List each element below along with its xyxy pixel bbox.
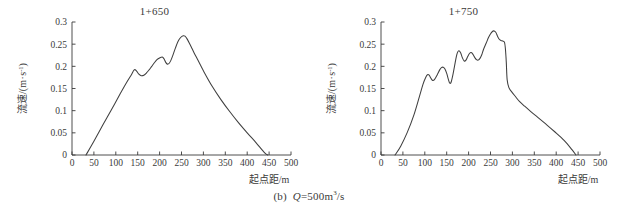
- x-tick-label: 100: [418, 158, 433, 168]
- y-tick-label: 0: [62, 150, 67, 160]
- figure-container: 1+650 05010015020025030035040045050000.0…: [0, 0, 618, 212]
- x-tick-label: 100: [109, 158, 124, 168]
- caption-value: =500m: [301, 190, 333, 202]
- x-tick-label: 250: [483, 158, 498, 168]
- x-tick-label: 300: [505, 158, 520, 168]
- y-tick-label: 0.05: [50, 128, 67, 138]
- y-axis-title: 流速/(m·s-1): [16, 63, 29, 114]
- y-tick-label: 0: [371, 150, 376, 160]
- x-tick-label: 500: [284, 158, 299, 168]
- x-tick-label: 0: [70, 158, 75, 168]
- y-axis-title: 流速/(m·s-1): [325, 63, 338, 114]
- y-tick-label: 0.15: [50, 84, 67, 94]
- y-tick-label: 0.3: [55, 17, 67, 27]
- y-tick-label: 0.1: [55, 106, 67, 116]
- chart-panel-right: 1+750 05010015020025030035040045050000.0…: [309, 0, 618, 185]
- x-tick-label: 250: [174, 158, 189, 168]
- caption-symbol: Q: [293, 190, 301, 202]
- y-tick-label: 0.2: [55, 62, 67, 72]
- figure-caption: (b) Q=500m3/s: [0, 189, 618, 202]
- axis-lines: [72, 22, 291, 155]
- line-chart-left: 05010015020025030035040045050000.050.10.…: [0, 0, 309, 185]
- data-series-line: [395, 31, 576, 155]
- chart-panels: 1+650 05010015020025030035040045050000.0…: [0, 0, 618, 185]
- x-tick-label: 350: [218, 158, 233, 168]
- x-axis-title: 起点距/m: [558, 174, 599, 185]
- y-tick-label: 0.25: [359, 40, 376, 50]
- svg-text:流速/(m·s-1): 流速/(m·s-1): [16, 63, 29, 114]
- svg-text:流速/(m·s-1): 流速/(m·s-1): [325, 63, 338, 114]
- chart-panel-left: 1+650 05010015020025030035040045050000.0…: [0, 0, 309, 185]
- x-tick-label: 450: [262, 158, 277, 168]
- x-tick-label: 450: [571, 158, 586, 168]
- x-tick-label: 150: [131, 158, 146, 168]
- x-tick-label: 0: [379, 158, 384, 168]
- line-chart-right: 05010015020025030035040045050000.050.10.…: [309, 0, 618, 185]
- x-tick-label: 200: [461, 158, 476, 168]
- axis-lines: [381, 22, 600, 155]
- data-series-line: [86, 36, 268, 155]
- y-tick-label: 0.15: [359, 84, 376, 94]
- x-tick-label: 500: [593, 158, 608, 168]
- x-tick-label: 400: [549, 158, 564, 168]
- caption-suffix: /s: [337, 190, 345, 202]
- caption-prefix: (b): [273, 190, 286, 202]
- x-tick-label: 400: [240, 158, 255, 168]
- x-tick-label: 50: [398, 158, 408, 168]
- y-tick-label: 0.25: [50, 40, 67, 50]
- x-tick-label: 300: [196, 158, 211, 168]
- y-tick-label: 0.05: [359, 128, 376, 138]
- y-tick-label: 0.1: [364, 106, 376, 116]
- y-tick-label: 0.2: [364, 62, 376, 72]
- x-axis-title: 起点距/m: [249, 174, 290, 185]
- x-tick-label: 200: [152, 158, 167, 168]
- x-tick-label: 150: [440, 158, 455, 168]
- x-tick-label: 350: [527, 158, 542, 168]
- x-tick-label: 50: [89, 158, 99, 168]
- y-tick-label: 0.3: [364, 17, 376, 27]
